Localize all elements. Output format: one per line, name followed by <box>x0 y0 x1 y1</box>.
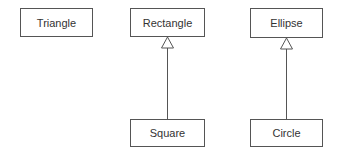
generalization-circle-ellipse <box>281 38 293 119</box>
inheritance-edges <box>0 0 338 154</box>
hollow-triangle-arrowhead-icon <box>162 37 174 48</box>
hollow-triangle-arrowhead-icon <box>281 38 293 49</box>
generalization-square-rectangle <box>162 37 174 119</box>
